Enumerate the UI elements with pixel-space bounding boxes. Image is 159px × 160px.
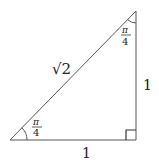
right-triangle-diagram: √2 1 1 π 4 π 4	[0, 0, 159, 160]
vertical-side-label: 1	[143, 77, 152, 93]
angle-arc-bottom-left	[22, 128, 27, 140]
angle-label-bottom-left: π 4	[32, 117, 42, 138]
hypotenuse-label: √2	[52, 60, 71, 78]
angle-bottom-left-numerator: π	[32, 117, 40, 127]
angle-top-denominator: 4	[122, 36, 128, 47]
right-angle-marker	[126, 130, 136, 140]
angle-bottom-left-denominator: 4	[33, 127, 39, 138]
hypotenuse-line	[10, 11, 136, 140]
angle-top-numerator: π	[121, 25, 129, 35]
horizontal-side-label: 1	[82, 145, 91, 160]
angle-label-top: π 4	[121, 25, 131, 47]
angle-arc-top	[128, 20, 136, 23]
